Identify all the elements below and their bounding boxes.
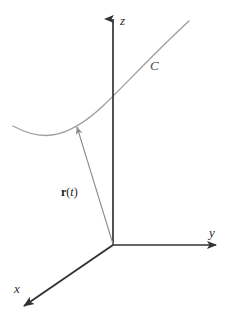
curve-label-c: C [150,59,159,72]
axis-label-z: z [120,14,125,27]
axis-x [24,245,113,306]
axis-label-x: x [14,282,20,295]
axis-label-y: y [209,226,215,239]
vector-paren-close: ) [74,185,78,199]
space-curve-c [13,21,189,136]
vector-calculus-figure: z y x C r(t) [0,0,230,316]
position-vector-r [77,127,113,244]
diagram-canvas [0,0,230,316]
vector-label-r-of-t: r(t) [61,186,78,198]
